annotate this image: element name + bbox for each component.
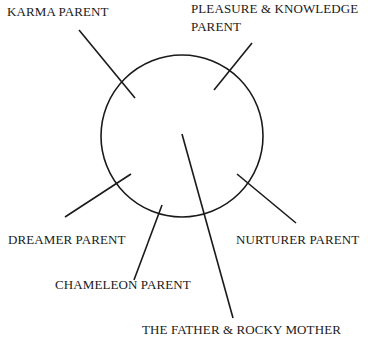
spoke-pleasure-knowledge: [214, 43, 252, 90]
spoke-dreamer: [65, 174, 131, 217]
spoke-nurturer: [237, 174, 296, 223]
label-chameleon-parent: CHAMELEON PARENT: [55, 276, 191, 293]
label-dreamer-parent: DREAMER PARENT: [8, 231, 126, 248]
label-karma-parent: KARMA PARENT: [7, 3, 109, 20]
spoke-karma: [79, 30, 135, 98]
label-pleasure-knowledge-line1: PLEASURE & KNOWLEDGE: [191, 0, 358, 17]
label-bottom-clipped: THE FATHER & ROCKY MOTHER: [142, 321, 341, 338]
label-nurturer-parent: NURTURER PARENT: [236, 231, 359, 248]
spoke-chameleon: [134, 205, 162, 280]
label-pleasure-knowledge-line2: PARENT: [191, 18, 241, 35]
